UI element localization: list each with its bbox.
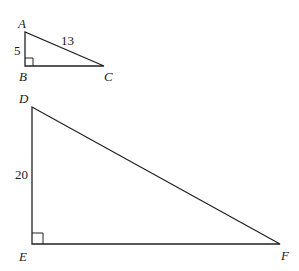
triangle-def-outline <box>32 107 280 244</box>
side-ab-length: 5 <box>14 43 21 58</box>
right-angle-marker-b <box>25 58 33 66</box>
vertex-label-b: B <box>19 69 27 84</box>
side-ac-length: 13 <box>61 33 74 48</box>
vertex-label-e: E <box>18 249 27 264</box>
triangle-def: D E F 20 <box>15 91 290 264</box>
similar-triangles-diagram: A B C 5 13 D E F 20 <box>0 0 299 271</box>
side-de-length: 20 <box>15 167 28 182</box>
vertex-label-c: C <box>104 69 113 84</box>
triangle-abc: A B C 5 13 <box>14 16 113 84</box>
vertex-label-f: F <box>280 248 290 263</box>
right-angle-marker-e <box>32 233 43 244</box>
vertex-label-d: D <box>18 91 29 106</box>
vertex-label-a: A <box>17 16 26 31</box>
